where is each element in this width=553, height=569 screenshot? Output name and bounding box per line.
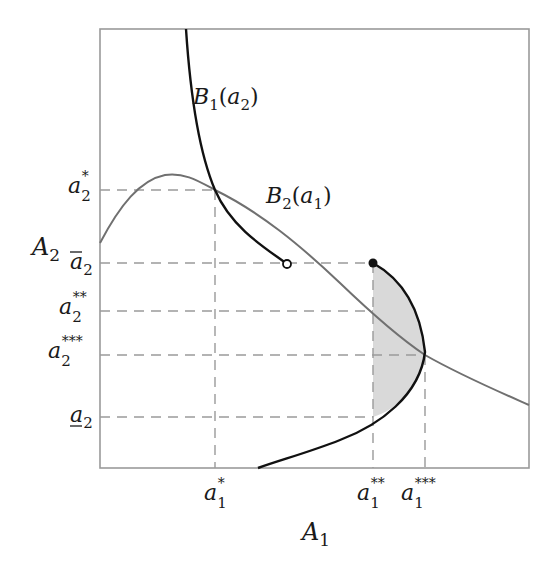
y-tick-a2-star: a2* — [68, 168, 91, 205]
svg-text:a2: a2 — [70, 402, 93, 432]
x-tick-a1-3star: a1*** — [401, 475, 436, 512]
best-response-diagram: B1(a2) B2(a1) A2 a2* a2 a2** a2*** a2 a1… — [0, 0, 553, 569]
y-tick-a2-2star: a2** — [59, 289, 87, 326]
y-tick-a2-bar: a2 — [70, 249, 93, 279]
x-tick-a1-star: a1* — [204, 475, 227, 512]
y-tick-a2-under: a2 — [70, 402, 93, 432]
label-b1: B1(a2) — [192, 84, 259, 114]
plot-frame — [100, 29, 529, 468]
x-tick-a1-2star: a1** — [357, 475, 385, 512]
closed-endpoint-marker — [369, 259, 378, 268]
curve-b1-upper — [186, 29, 286, 263]
label-b2: B2(a1) — [265, 183, 332, 213]
y-tick-a2-3star: a2*** — [48, 333, 83, 370]
y-axis-label: A2 — [30, 233, 60, 265]
shaded-region — [373, 263, 425, 417]
svg-text:a2: a2 — [70, 249, 93, 279]
x-axis-label: A1 — [300, 518, 330, 550]
open-endpoint-marker — [283, 260, 291, 268]
